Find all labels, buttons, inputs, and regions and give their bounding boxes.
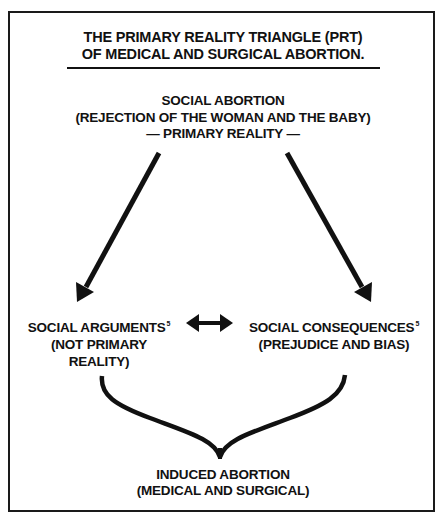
bidirectional-arrow xyxy=(186,314,233,332)
diagram-connectors xyxy=(0,0,443,523)
brace-connector xyxy=(102,375,345,457)
arrow-top-to-left xyxy=(76,153,159,302)
arrow-top-to-right xyxy=(287,153,372,302)
